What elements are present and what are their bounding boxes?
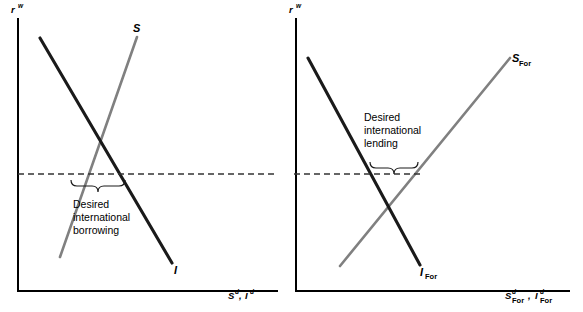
desired-international-lending-brace [370,162,418,174]
borrowing-line-2: international [73,211,130,223]
figure-canvas: r w S d , I d S I Desired int [0,0,583,312]
foreign-investment-curve-label-subscript: For [425,272,437,281]
two-panel-loanable-funds-figure: r w S d , I d S I Desired int [0,0,583,312]
foreign-investment-curve-label-base: I [420,266,424,278]
foreign-investment-curve [308,58,420,265]
foreign-y-axis-label-superscript: w [296,2,302,9]
home-x-axis-label-i: I [245,290,248,301]
desired-international-borrowing-brace [71,180,125,192]
lending-line-3: lending [364,137,398,149]
foreign-saving-curve-label-subscript: For [519,59,531,68]
lending-line-1: Desired [364,111,400,123]
foreign-y-axis-label: r [289,4,294,15]
foreign-x-axis-label-s: S [505,290,512,301]
lending-line-2: international [364,124,421,136]
home-saving-curve-label: S [133,22,141,34]
home-x-axis-label-s: S [228,290,235,301]
foreign-x-axis-label-i-subscript: For [540,296,552,305]
home-y-axis-label: r [11,4,16,15]
desired-international-lending-label: Desired international lending [364,111,421,149]
foreign-x-axis-label-s-subscript: For [512,296,524,305]
home-x-axis-label: S d , I d [228,288,255,301]
foreign-x-axis-label-i: I [535,290,538,301]
foreign-x-axis-label-comma: , [527,290,531,301]
desired-international-borrowing-label: Desired international borrowing [73,198,130,236]
home-country-panel: r w S d , I d S I Desired int [11,2,278,301]
home-x-axis-label-comma: , [238,290,242,301]
foreign-investment-curve-label: I For [420,266,437,281]
borrowing-line-1: Desired [73,198,109,210]
foreign-saving-curve-label: S For [512,52,531,68]
home-investment-curve-label: I [174,264,178,276]
foreign-country-panel: r w S d For , I d For S For I For [289,2,570,305]
borrowing-line-3: borrowing [73,224,119,236]
home-y-axis-label-superscript: w [18,2,24,9]
